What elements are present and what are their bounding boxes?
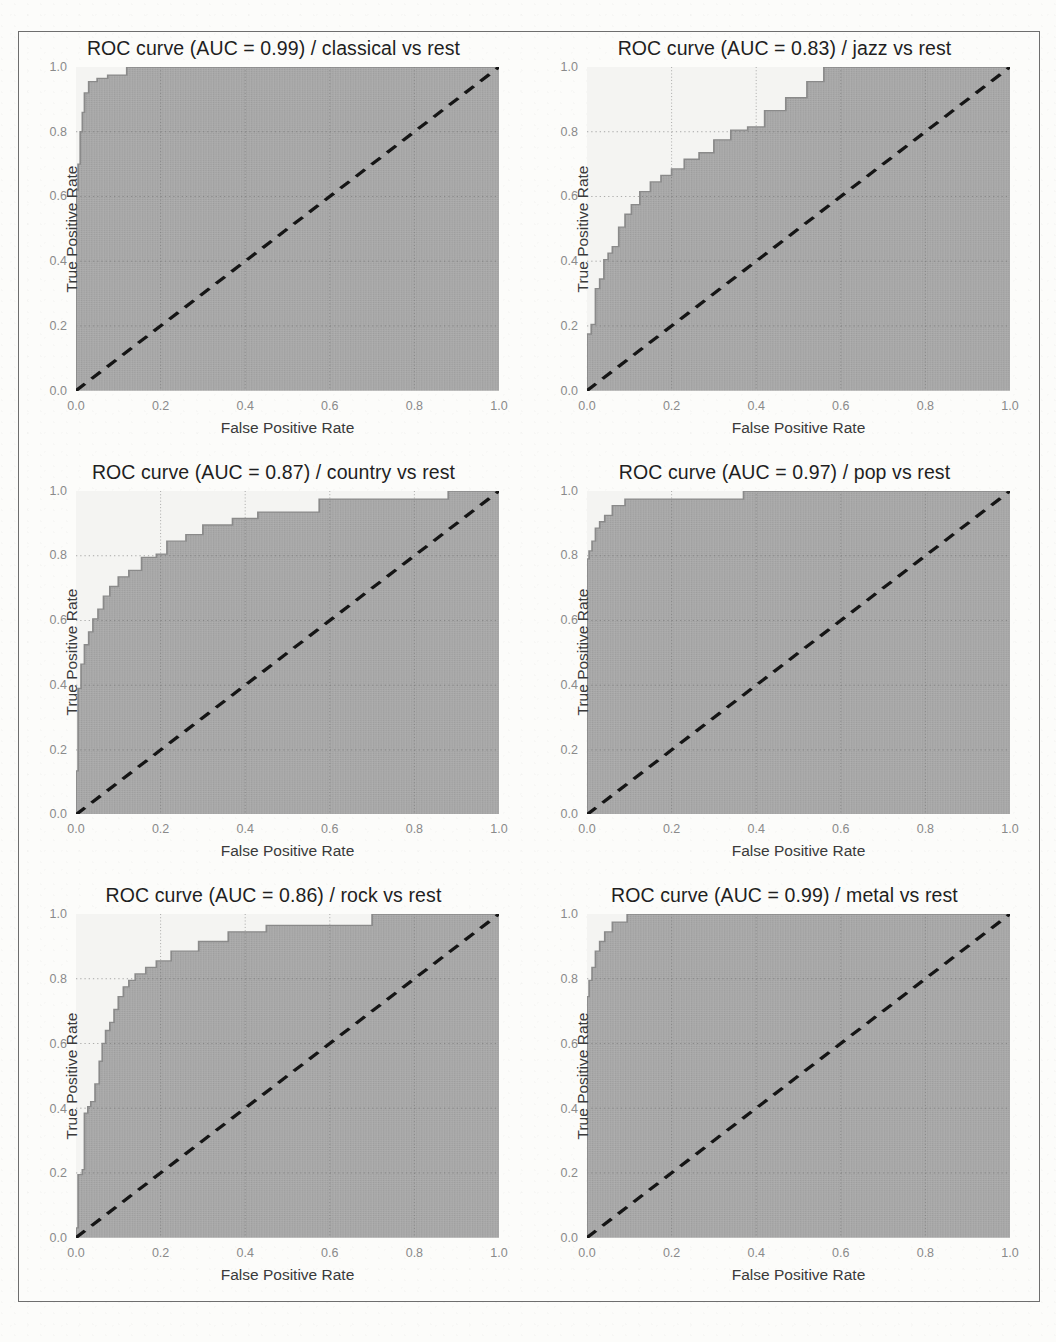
y-tick: 0.0 xyxy=(50,384,67,398)
x-axis-label: False Positive Rate xyxy=(587,842,1010,860)
roc-chart-svg xyxy=(76,67,499,391)
x-tick: 0.0 xyxy=(578,399,595,413)
x-tick: 0.2 xyxy=(663,1246,680,1260)
x-axis-label: False Positive Rate xyxy=(587,419,1010,437)
x-tick: 0.2 xyxy=(663,822,680,836)
y-axis-label: True Positive Rate xyxy=(574,1013,592,1140)
roc-panel-classical: ROC curve (AUC = 0.99) / classical vs re… xyxy=(18,31,529,455)
y-axis-label: True Positive Rate xyxy=(574,165,592,292)
roc-panel-metal: ROC curve (AUC = 0.99) / metal vs rest0.… xyxy=(529,878,1040,1302)
y-tick: 0.2 xyxy=(50,1166,67,1180)
plot-area: 0.00.20.40.60.81.00.00.20.40.60.81.0Fals… xyxy=(76,914,499,1238)
y-tick: 0.0 xyxy=(561,384,578,398)
y-tick: 1.0 xyxy=(50,907,67,921)
roc-chart-svg xyxy=(76,491,499,815)
y-tick: 0.8 xyxy=(50,548,67,562)
x-tick: 0.8 xyxy=(917,1246,934,1260)
x-tick-labels: 0.00.20.40.60.81.0 xyxy=(587,399,1010,415)
y-tick: 1.0 xyxy=(50,60,67,74)
plot-area: 0.00.20.40.60.81.00.00.20.40.60.81.0Fals… xyxy=(587,914,1010,1238)
plot-area: 0.00.20.40.60.81.00.00.20.40.60.81.0Fals… xyxy=(587,67,1010,391)
y-axis-label: True Positive Rate xyxy=(63,1013,81,1140)
y-tick: 0.8 xyxy=(50,972,67,986)
roc-panel-grid: ROC curve (AUC = 0.99) / classical vs re… xyxy=(18,31,1040,1302)
x-tick: 0.4 xyxy=(747,1246,764,1260)
y-tick: 1.0 xyxy=(50,484,67,498)
x-tick: 0.4 xyxy=(236,1246,253,1260)
y-tick: 0.8 xyxy=(561,125,578,139)
y-tick: 0.2 xyxy=(50,319,67,333)
y-tick: 1.0 xyxy=(561,907,578,921)
panel-title: ROC curve (AUC = 0.99) / classical vs re… xyxy=(18,37,529,60)
x-tick: 0.0 xyxy=(67,399,84,413)
x-tick-labels: 0.00.20.40.60.81.0 xyxy=(76,399,499,415)
roc-chart-svg xyxy=(587,914,1010,1238)
x-tick: 0.0 xyxy=(578,822,595,836)
x-tick: 0.4 xyxy=(236,399,253,413)
y-tick: 0.8 xyxy=(50,125,67,139)
plot-area: 0.00.20.40.60.81.00.00.20.40.60.81.0Fals… xyxy=(76,491,499,815)
x-tick: 0.6 xyxy=(832,399,849,413)
y-axis-label: True Positive Rate xyxy=(574,589,592,716)
x-tick-labels: 0.00.20.40.60.81.0 xyxy=(76,822,499,838)
panel-title: ROC curve (AUC = 0.86) / rock vs rest xyxy=(18,884,529,907)
roc-panel-jazz: ROC curve (AUC = 0.83) / jazz vs rest0.0… xyxy=(529,31,1040,455)
x-tick: 0.6 xyxy=(832,822,849,836)
x-axis-label: False Positive Rate xyxy=(587,1266,1010,1284)
x-tick: 0.6 xyxy=(321,822,338,836)
panel-title: ROC curve (AUC = 0.99) / metal vs rest xyxy=(529,884,1040,907)
x-tick: 0.8 xyxy=(406,822,423,836)
y-tick: 0.8 xyxy=(561,548,578,562)
x-tick-labels: 0.00.20.40.60.81.0 xyxy=(76,1246,499,1262)
x-tick: 0.6 xyxy=(832,1246,849,1260)
x-tick: 0.0 xyxy=(578,1246,595,1260)
x-tick: 1.0 xyxy=(490,399,507,413)
y-tick: 0.2 xyxy=(561,319,578,333)
y-tick: 0.0 xyxy=(561,1231,578,1245)
roc-chart-svg xyxy=(587,67,1010,391)
x-tick: 0.4 xyxy=(236,822,253,836)
y-tick: 0.2 xyxy=(50,743,67,757)
panel-title: ROC curve (AUC = 0.97) / pop vs rest xyxy=(529,461,1040,484)
plot-area: 0.00.20.40.60.81.00.00.20.40.60.81.0Fals… xyxy=(76,67,499,391)
y-tick: 1.0 xyxy=(561,60,578,74)
x-tick: 0.4 xyxy=(747,399,764,413)
y-tick: 0.0 xyxy=(50,1231,67,1245)
panel-title: ROC curve (AUC = 0.87) / country vs rest xyxy=(18,461,529,484)
x-tick: 1.0 xyxy=(1001,1246,1018,1260)
x-tick-labels: 0.00.20.40.60.81.0 xyxy=(587,1246,1010,1262)
x-axis-label: False Positive Rate xyxy=(76,419,499,437)
x-tick: 0.2 xyxy=(663,399,680,413)
x-axis-label: False Positive Rate xyxy=(76,842,499,860)
roc-panel-country: ROC curve (AUC = 0.87) / country vs rest… xyxy=(18,455,529,879)
x-tick: 1.0 xyxy=(490,822,507,836)
y-tick: 0.8 xyxy=(561,972,578,986)
x-tick: 0.2 xyxy=(152,399,169,413)
x-tick: 0.6 xyxy=(321,399,338,413)
x-tick-labels: 0.00.20.40.60.81.0 xyxy=(587,822,1010,838)
roc-chart-svg xyxy=(587,491,1010,815)
y-tick: 0.0 xyxy=(50,807,67,821)
x-tick: 0.8 xyxy=(917,399,934,413)
y-tick: 0.2 xyxy=(561,1166,578,1180)
x-tick: 0.0 xyxy=(67,1246,84,1260)
panel-title: ROC curve (AUC = 0.83) / jazz vs rest xyxy=(529,37,1040,60)
plot-area: 0.00.20.40.60.81.00.00.20.40.60.81.0Fals… xyxy=(587,491,1010,815)
y-axis-label: True Positive Rate xyxy=(63,165,81,292)
x-tick: 1.0 xyxy=(490,1246,507,1260)
roc-chart-svg xyxy=(76,914,499,1238)
x-tick: 0.2 xyxy=(152,1246,169,1260)
y-axis-label: True Positive Rate xyxy=(63,589,81,716)
x-tick: 0.0 xyxy=(67,822,84,836)
y-tick: 0.0 xyxy=(561,807,578,821)
y-tick: 0.2 xyxy=(561,743,578,757)
x-tick: 1.0 xyxy=(1001,822,1018,836)
x-axis-label: False Positive Rate xyxy=(76,1266,499,1284)
x-tick: 0.8 xyxy=(406,399,423,413)
x-tick: 1.0 xyxy=(1001,399,1018,413)
roc-panel-pop: ROC curve (AUC = 0.97) / pop vs rest0.00… xyxy=(529,455,1040,879)
x-tick: 0.4 xyxy=(747,822,764,836)
roc-panel-rock: ROC curve (AUC = 0.86) / rock vs rest0.0… xyxy=(18,878,529,1302)
x-tick: 0.8 xyxy=(406,1246,423,1260)
x-tick: 0.2 xyxy=(152,822,169,836)
